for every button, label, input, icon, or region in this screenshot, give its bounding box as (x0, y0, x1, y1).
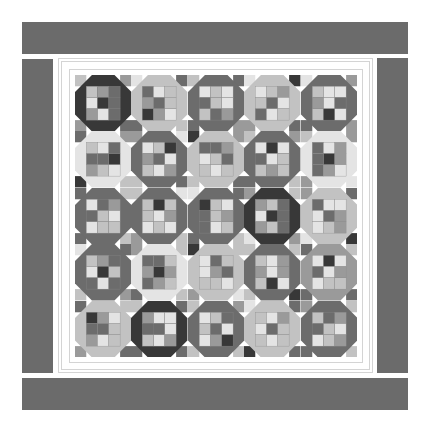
nine-patch-cell (334, 222, 345, 233)
nine-patch-cell (222, 199, 233, 210)
nine-patch-cell (98, 323, 109, 334)
nine-patch-cell (210, 109, 221, 120)
nine-patch-cell (143, 199, 154, 210)
nine-patch-cell (267, 109, 278, 120)
nine-patch-cell (109, 98, 120, 109)
snowball-block (75, 188, 131, 244)
snowball-block (131, 75, 187, 131)
right-border (377, 58, 408, 373)
block-art (75, 131, 131, 187)
nine-patch-cell (165, 222, 176, 233)
nine-patch-cell (267, 210, 278, 221)
block-art (131, 301, 187, 357)
nine-patch-cell (98, 109, 109, 120)
nine-patch-cell (143, 267, 154, 278)
nine-patch-cell (267, 278, 278, 289)
snowball-block (188, 244, 244, 300)
nine-patch-cell (278, 312, 289, 323)
nine-patch-cell (98, 334, 109, 345)
nine-patch-cell (334, 267, 345, 278)
nine-patch-cell (143, 165, 154, 176)
nine-patch-cell (210, 255, 221, 266)
block-art (188, 301, 244, 357)
left-border (22, 59, 53, 373)
nine-patch-cell (312, 210, 323, 221)
nine-patch-cell (98, 222, 109, 233)
nine-patch-cell (86, 222, 97, 233)
nine-patch-cell (199, 334, 210, 345)
nine-patch-cell (334, 98, 345, 109)
nine-patch-cell (222, 210, 233, 221)
nine-patch-cell (278, 278, 289, 289)
nine-patch-cell (278, 323, 289, 334)
nine-patch-cell (210, 143, 221, 154)
nine-patch-cell (334, 255, 345, 266)
nine-patch-cell (165, 143, 176, 154)
snowball-block (244, 244, 300, 300)
block-art (301, 188, 357, 244)
nine-patch-cell (143, 255, 154, 266)
nine-patch-cell (312, 154, 323, 165)
nine-patch-cell (199, 278, 210, 289)
nine-patch-cell (255, 222, 266, 233)
nine-patch-cell (312, 86, 323, 97)
nine-patch-cell (165, 154, 176, 165)
snowball-block (188, 131, 244, 187)
snowball-block (75, 75, 131, 131)
nine-patch-cell (86, 154, 97, 165)
snowball-block (301, 75, 357, 131)
nine-patch-cell (255, 334, 266, 345)
block-art (301, 301, 357, 357)
nine-patch-cell (267, 334, 278, 345)
nine-patch-cell (222, 278, 233, 289)
nine-patch-cell (165, 98, 176, 109)
nine-patch-cell (334, 312, 345, 323)
nine-patch-cell (255, 323, 266, 334)
nine-patch-cell (154, 312, 165, 323)
nine-patch-cell (323, 98, 334, 109)
nine-patch-cell (334, 165, 345, 176)
block-art (75, 188, 131, 244)
nine-patch-cell (278, 210, 289, 221)
nine-patch-cell (98, 267, 109, 278)
nine-patch-cell (323, 278, 334, 289)
nine-patch-cell (278, 86, 289, 97)
nine-patch-cell (210, 312, 221, 323)
nine-patch-cell (86, 267, 97, 278)
nine-patch-cell (165, 255, 176, 266)
nine-patch-cell (222, 154, 233, 165)
nine-patch-cell (255, 165, 266, 176)
snowball-block (244, 301, 300, 357)
nine-patch-cell (255, 255, 266, 266)
snowball-block (75, 301, 131, 357)
nine-patch-cell (143, 143, 154, 154)
nine-patch-cell (109, 255, 120, 266)
nine-patch-cell (255, 109, 266, 120)
nine-patch-cell (199, 199, 210, 210)
nine-patch-cell (109, 109, 120, 120)
nine-patch-cell (199, 109, 210, 120)
nine-patch-cell (199, 255, 210, 266)
nine-patch-cell (154, 154, 165, 165)
nine-patch-cell (109, 143, 120, 154)
nine-patch-cell (154, 143, 165, 154)
nine-patch-cell (312, 323, 323, 334)
block-art (301, 131, 357, 187)
nine-patch-cell (154, 86, 165, 97)
nine-patch-cell (109, 334, 120, 345)
nine-patch-cell (323, 199, 334, 210)
snowball-block (188, 188, 244, 244)
nine-patch-cell (199, 165, 210, 176)
nine-patch-cell (278, 199, 289, 210)
nine-patch-cell (154, 222, 165, 233)
nine-patch-cell (199, 143, 210, 154)
nine-patch-cell (334, 143, 345, 154)
nine-patch-cell (86, 334, 97, 345)
nine-patch-cell (154, 165, 165, 176)
block-art (244, 188, 300, 244)
nine-patch-cell (323, 210, 334, 221)
nine-patch-cell (143, 86, 154, 97)
nine-patch-cell (143, 154, 154, 165)
nine-patch-cell (222, 222, 233, 233)
block-art (131, 244, 187, 300)
